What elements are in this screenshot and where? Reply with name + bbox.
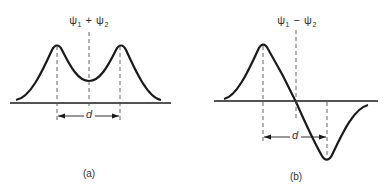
psi-difference-label: ψ1 − ψ2: [277, 14, 317, 28]
caption-a: (a): [83, 168, 95, 179]
psi-sum-label: ψ1 + ψ2: [69, 14, 109, 28]
wavefunction-figure: [0, 0, 387, 191]
distance-label-a: d: [84, 108, 94, 120]
caption-b: (b): [290, 171, 302, 182]
diagram-canvas: ψ1 + ψ2 d (a) ψ1 − ψ2 d (b): [0, 0, 387, 191]
curve-psi-sum: [16, 46, 161, 101]
distance-label-b: d: [292, 129, 298, 141]
